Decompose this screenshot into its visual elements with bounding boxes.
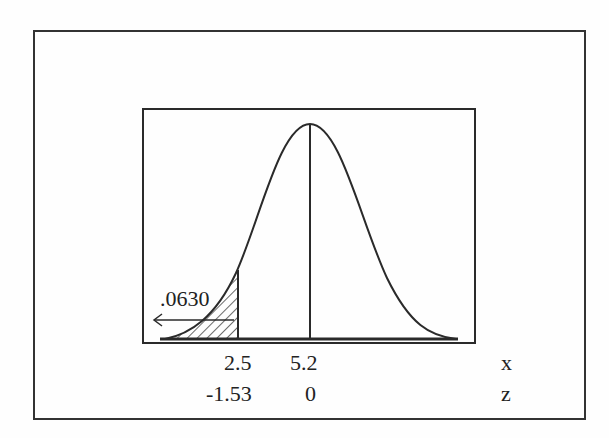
z-axis-label: z bbox=[501, 383, 511, 405]
z-tick-0: 0 bbox=[305, 383, 316, 405]
shaded-area-label: .0630 bbox=[160, 288, 210, 310]
x-tick-2-5: 2.5 bbox=[224, 352, 252, 374]
x-tick-5-2: 5.2 bbox=[290, 352, 318, 374]
x-axis-label: x bbox=[501, 352, 512, 374]
z-tick-neg-1-53: -1.53 bbox=[206, 383, 252, 405]
